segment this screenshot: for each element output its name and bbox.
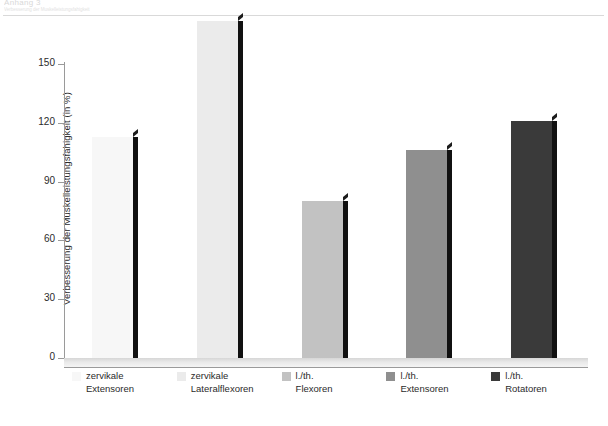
bar-face <box>406 150 447 358</box>
legend-label-line: l./th. <box>296 370 333 383</box>
bar-side-3d <box>552 121 557 358</box>
legend-label-line: Lateralflexoren <box>191 383 254 396</box>
y-tick: 150 <box>0 64 64 65</box>
page-header: Anhang 3 Verbesserung der Muskelleistung… <box>0 0 608 18</box>
chart-legend: zervikaleExtensorenzervikaleLateralflexo… <box>64 370 588 418</box>
bar-side-3d <box>447 150 452 358</box>
legend-swatch <box>177 372 186 381</box>
plot-area <box>64 38 588 358</box>
chart-bar <box>197 21 238 358</box>
y-tick-label: 0 <box>49 351 55 362</box>
legend-label-line: Extensoren <box>400 383 448 396</box>
legend-label: zervikaleLateralflexoren <box>191 370 254 395</box>
legend-swatch <box>72 372 81 381</box>
chart-bar <box>511 121 552 358</box>
y-tick-label: 90 <box>44 175 55 186</box>
legend-label: l./th.Flexoren <box>296 370 333 395</box>
bar-chart: Verbesserung der Muskelleistungsfähigkei… <box>0 18 608 426</box>
bar-top-3d <box>552 113 557 121</box>
legend-item[interactable]: zervikaleLateralflexoren <box>177 370 254 395</box>
chart-bar <box>92 137 133 358</box>
bar-side-3d <box>343 201 348 358</box>
legend-label: zervikaleExtensoren <box>86 370 134 395</box>
bar-side-3d <box>133 137 138 358</box>
bar-face <box>92 137 133 358</box>
legend-label-line: Flexoren <box>296 383 333 396</box>
chart-floor-3d <box>64 358 588 367</box>
y-tick-label: 60 <box>44 233 55 244</box>
bar-top-3d <box>343 193 348 201</box>
legend-label-line: Rotatoren <box>505 383 547 396</box>
legend-item[interactable]: l./th.Extensoren <box>386 370 448 395</box>
legend-label-line: Extensoren <box>86 383 134 396</box>
page-header-subtitle: Verbesserung der Muskelleistungsfahigkei… <box>4 7 90 13</box>
legend-swatch <box>282 372 291 381</box>
bar-face <box>197 21 238 358</box>
chart-bar <box>406 150 447 358</box>
y-tick: 60 <box>0 240 64 241</box>
chart-bar <box>302 201 343 358</box>
legend-item[interactable]: zervikaleExtensoren <box>72 370 134 395</box>
y-tick: 0 <box>0 358 64 359</box>
bar-top-3d <box>447 142 452 150</box>
legend-swatch <box>491 372 500 381</box>
legend-label: l./th.Extensoren <box>400 370 448 395</box>
header-divider <box>3 15 604 16</box>
y-tick: 120 <box>0 123 64 124</box>
legend-swatch <box>386 372 395 381</box>
legend-label-line: l./th. <box>505 370 547 383</box>
legend-label-line: zervikale <box>86 370 134 383</box>
y-tick-label: 30 <box>44 292 55 303</box>
bar-side-3d <box>238 21 243 358</box>
y-tick: 90 <box>0 182 64 183</box>
y-tick-label: 120 <box>38 116 55 127</box>
chart-floor-edge <box>64 367 588 368</box>
bar-top-3d <box>133 129 138 137</box>
page-header-title: Anhang 3 <box>4 0 41 7</box>
legend-label-line: l./th. <box>400 370 448 383</box>
legend-item[interactable]: l./th.Flexoren <box>282 370 333 395</box>
bar-face <box>302 201 343 358</box>
legend-item[interactable]: l./th.Rotatoren <box>491 370 547 395</box>
bar-face <box>511 121 552 358</box>
legend-label-line: zervikale <box>191 370 254 383</box>
legend-label: l./th.Rotatoren <box>505 370 547 395</box>
y-tick: 30 <box>0 299 64 300</box>
y-tick-label: 150 <box>38 57 55 68</box>
